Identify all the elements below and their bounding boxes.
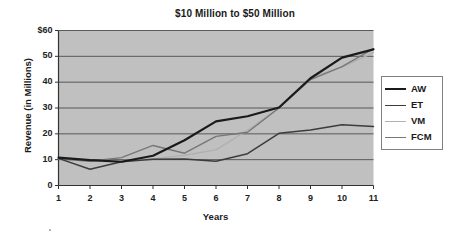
y-tick-label: $60: [19, 25, 53, 35]
y-tick-label: 10: [19, 154, 53, 164]
y-tick-label: 30: [19, 102, 53, 112]
legend-swatch-aw-icon: [385, 88, 406, 90]
legend-label: VM: [411, 116, 425, 126]
x-tick-label: 2: [79, 193, 101, 203]
y-tick-label: 20: [19, 128, 53, 138]
x-tick-label: 6: [205, 193, 227, 203]
x-tick-label: 8: [268, 193, 290, 203]
legend-label: AW: [411, 84, 426, 94]
legend-item-vm[interactable]: VM: [385, 113, 439, 129]
chart-legend: AWETVMFCM: [381, 76, 443, 150]
legend-label: FCM: [411, 132, 432, 142]
x-tick-label: 5: [174, 193, 196, 203]
y-tick-label: 0: [19, 180, 53, 190]
legend-item-aw[interactable]: AW: [385, 81, 439, 97]
x-tick-label: 3: [111, 193, 133, 203]
y-tick-label: 50: [19, 50, 53, 60]
line-chart: $10 Million to $50 Million Revenue (in M…: [0, 0, 461, 238]
x-tick-label: 9: [300, 193, 322, 203]
legend-label: ET: [411, 100, 423, 110]
y-tick-label: 40: [19, 76, 53, 86]
x-tick-label: 4: [142, 193, 164, 203]
x-axis-title: Years: [58, 211, 373, 222]
legend-swatch-et-icon: [385, 105, 406, 106]
x-tick-label: 11: [363, 193, 385, 203]
legend-item-et[interactable]: ET: [385, 97, 439, 113]
scan-artifact-dot: [49, 229, 51, 231]
legend-swatch-vm-icon: [385, 121, 406, 122]
x-tick-label: 7: [237, 193, 259, 203]
legend-swatch-fcm-icon: [385, 137, 406, 138]
x-tick-label: 1: [48, 193, 70, 203]
legend-item-fcm[interactable]: FCM: [385, 129, 439, 145]
x-tick-label: 10: [331, 193, 353, 203]
